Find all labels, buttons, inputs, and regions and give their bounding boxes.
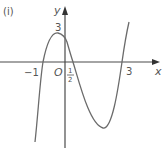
part-label: (i) xyxy=(3,6,14,17)
cubic-curve xyxy=(35,22,129,142)
x-axis-label: x xyxy=(154,65,162,78)
x-tick-half-denominator: 2 xyxy=(68,76,72,84)
x-tick-three: 3 xyxy=(126,66,132,77)
x-tick-neg-one: −1 xyxy=(24,67,39,78)
y-axis-label: y xyxy=(53,4,61,17)
cubic-graph: (i) y 3 −1 O 1 2 3 x xyxy=(0,0,165,152)
origin-label: O xyxy=(54,66,63,79)
x-tick-half-numerator: 1 xyxy=(68,67,72,75)
y-axis-arrow-icon xyxy=(62,6,68,15)
y-intercept-label: 3 xyxy=(55,22,61,33)
